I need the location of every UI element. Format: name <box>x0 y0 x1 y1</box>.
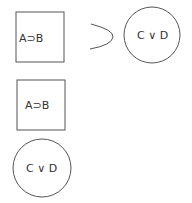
second-square-label: A⊃B <box>25 99 49 112</box>
second-square: A⊃B <box>17 80 65 130</box>
conclusion-circle: C ∨ D <box>124 7 180 63</box>
second-circle: C ∨ D <box>13 139 71 197</box>
logic-diagram: A⊃B C ∨ D A⊃B C ∨ D <box>0 0 192 203</box>
conclusion-label: C ∨ D <box>137 29 168 42</box>
horseshoe-arc <box>90 24 113 49</box>
premise-square: A⊃B <box>16 12 64 62</box>
premise-label: A⊃B <box>19 32 43 45</box>
second-circle-label: C ∨ D <box>26 162 57 175</box>
